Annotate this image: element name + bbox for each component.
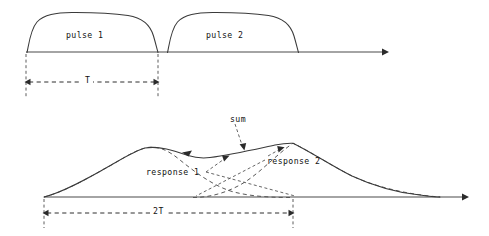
sum-leader-arrow <box>240 143 247 151</box>
t-dimension-label: T <box>82 76 93 84</box>
response-2-label: response 2 <box>267 157 320 165</box>
response-1-label: response 1 <box>146 168 199 176</box>
t-dimension-arrow-left <box>25 79 31 85</box>
twot-dimension-arrow-right <box>289 210 295 216</box>
pulse-1-label: pulse 1 <box>66 31 103 39</box>
pulse-2-label: pulse 2 <box>206 31 243 39</box>
t-dimension-arrow-right <box>154 79 160 85</box>
pulse-response-diagram: pulse 1 pulse 2 T sum response 1 respons… <box>0 0 489 236</box>
response-2-leader-arrow <box>277 146 284 153</box>
bottom-axis-arrowhead <box>462 194 469 201</box>
twot-dimension-arrow-left <box>43 210 49 216</box>
response-1-leader-arrow <box>222 155 230 161</box>
bottom-panel-group <box>43 124 470 228</box>
twot-dimension-label: 2T <box>150 207 167 215</box>
top-panel-group <box>25 13 390 98</box>
response-2-curve <box>193 143 440 197</box>
sum-curve <box>44 143 440 197</box>
top-axis-arrowhead <box>382 49 389 56</box>
sum-label: sum <box>230 115 246 123</box>
